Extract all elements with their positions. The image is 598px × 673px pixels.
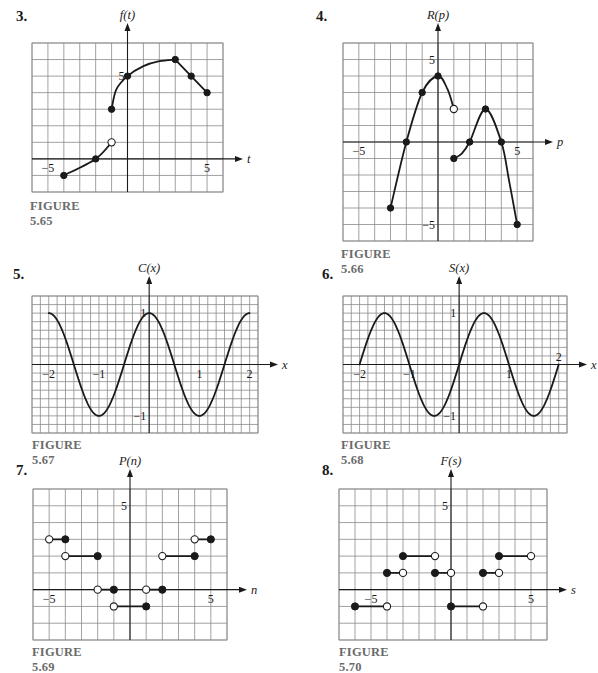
x-axis-arrow-icon (559, 587, 567, 593)
open-endpoint-icon (383, 603, 390, 610)
y-axis-arrow-icon (448, 469, 454, 477)
filled-endpoint-icon (431, 569, 438, 576)
y-axis-label: F(s) (440, 454, 462, 468)
x-tick-label: 5 (528, 592, 534, 606)
figure-caption: FIGURE 5.70 (339, 645, 389, 673)
y-tick-label: 5 (442, 499, 448, 513)
filled-endpoint-icon (351, 603, 358, 610)
chart-f-of-s: sF(s)−555 (0, 0, 598, 673)
filled-endpoint-icon (495, 553, 502, 560)
open-endpoint-icon (399, 569, 406, 576)
open-endpoint-icon (431, 553, 438, 560)
x-tick-label: −5 (365, 592, 378, 606)
filled-endpoint-icon (383, 569, 390, 576)
filled-endpoint-icon (479, 569, 486, 576)
open-endpoint-icon (447, 569, 454, 576)
open-endpoint-icon (479, 603, 486, 610)
filled-endpoint-icon (399, 553, 406, 560)
x-axis-label: s (571, 583, 576, 597)
open-endpoint-icon (527, 553, 534, 560)
filled-endpoint-icon (447, 603, 454, 610)
open-endpoint-icon (495, 569, 502, 576)
